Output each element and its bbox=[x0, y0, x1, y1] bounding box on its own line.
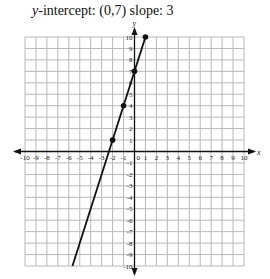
y-tick-label: 5 bbox=[129, 91, 133, 99]
y-tick-label: -7 bbox=[127, 228, 133, 236]
x-tick-label: -7 bbox=[55, 154, 61, 162]
y-tick-label: -6 bbox=[127, 217, 133, 225]
x-tick-label: 2 bbox=[155, 154, 159, 162]
y-tick-label: 3 bbox=[129, 114, 133, 122]
x-tick-label: -2 bbox=[110, 154, 116, 162]
y-tick-label: -8 bbox=[127, 240, 133, 248]
x-tick-label: 9 bbox=[231, 154, 235, 162]
y-tick-label: -4 bbox=[127, 194, 133, 202]
y-tick-label: 2 bbox=[129, 125, 133, 133]
y-tick-label: -1 bbox=[127, 159, 133, 167]
y-tick-label: -2 bbox=[127, 171, 133, 179]
x-tick-label: 7 bbox=[209, 154, 213, 162]
y-tick-label: 4 bbox=[129, 102, 133, 110]
x-tick-label: 10 bbox=[241, 154, 249, 162]
data-point bbox=[143, 34, 149, 40]
x-tick-label: 1 bbox=[144, 154, 148, 162]
y-tick-label: 9 bbox=[129, 45, 133, 53]
x-tick-label: 0 bbox=[137, 154, 141, 162]
x-tick-label: 3 bbox=[166, 154, 170, 162]
x-tick-label: -6 bbox=[66, 154, 72, 162]
x-tick-label: -3 bbox=[99, 154, 105, 162]
data-point bbox=[121, 103, 127, 109]
data-point bbox=[110, 137, 116, 143]
y-tick-label: -3 bbox=[127, 182, 133, 190]
y-tick-label: 1 bbox=[129, 137, 133, 145]
x-axis-right-arrow-icon bbox=[248, 149, 256, 155]
x-tick-label: 5 bbox=[188, 154, 192, 162]
x-tick-label: 8 bbox=[220, 154, 224, 162]
y-tick-label: -9 bbox=[127, 251, 133, 259]
x-tick-label: 6 bbox=[198, 154, 202, 162]
x-tick-label: -10 bbox=[20, 154, 30, 162]
y-tick-label: -10 bbox=[123, 263, 133, 271]
x-tick-label: -5 bbox=[77, 154, 83, 162]
x-tick-label: 4 bbox=[177, 154, 181, 162]
x-tick-label: -9 bbox=[33, 154, 39, 162]
y-axis-label: y bbox=[132, 19, 137, 28]
data-point bbox=[132, 69, 138, 75]
coordinate-plane: xy-10-9-8-7-6-5-4-3-2-1012345678910-10-9… bbox=[0, 0, 270, 279]
y-tick-label: 8 bbox=[129, 56, 133, 64]
y-tick-label: 10 bbox=[126, 34, 134, 42]
x-tick-label: -8 bbox=[44, 154, 50, 162]
x-tick-label: -4 bbox=[88, 154, 94, 162]
y-tick-label: -5 bbox=[127, 205, 133, 213]
x-axis-label: x bbox=[256, 148, 261, 157]
